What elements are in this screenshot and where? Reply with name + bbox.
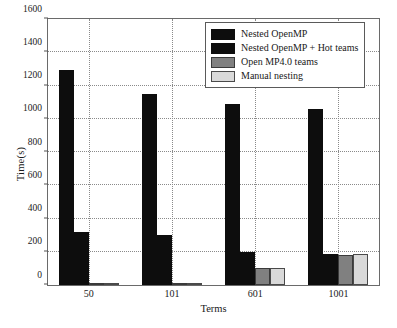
bar — [172, 283, 187, 285]
x-tick-label: 50 — [47, 286, 130, 302]
legend-item: Nested OpenMP — [211, 27, 358, 41]
y-tick-label: 200 — [28, 238, 48, 248]
y-tick-mark — [44, 51, 48, 52]
bar — [74, 232, 89, 285]
y-tick-label: 800 — [28, 138, 48, 148]
legend-swatch-icon — [211, 71, 235, 82]
legend-item: Manual nesting — [211, 69, 358, 83]
bar — [157, 235, 172, 285]
y-tick-mark — [44, 84, 48, 85]
legend-label: Nested OpenMP + Hot teams — [241, 43, 358, 53]
legend-item: Open MP4.0 teams — [211, 55, 358, 69]
y-tick-mark — [44, 284, 48, 285]
legend-swatch-icon — [211, 29, 235, 40]
y-tick-mark — [44, 18, 48, 19]
legend-swatch-icon — [211, 57, 235, 68]
x-axis-title: Terms — [47, 303, 380, 314]
bar — [353, 254, 368, 285]
y-tick-label: 400 — [28, 204, 48, 214]
y-tick-label: 0 — [37, 271, 48, 281]
x-tick-label: 601 — [214, 286, 297, 302]
bar — [225, 104, 240, 285]
x-tick-label: 1001 — [297, 286, 380, 302]
bar — [255, 268, 270, 285]
x-axis-ticks: 501016011001 — [47, 286, 380, 302]
bar — [59, 70, 74, 285]
bar — [323, 254, 338, 285]
y-tick-label: 1200 — [23, 71, 48, 81]
y-tick-label: 1000 — [23, 105, 48, 115]
y-tick-label: 1400 — [23, 38, 48, 48]
bar — [240, 252, 255, 285]
bar-group-50 — [48, 19, 131, 285]
y-axis-title: Time(s) — [15, 147, 26, 181]
bar — [89, 283, 104, 285]
bar — [338, 255, 353, 285]
chart-legend: Nested OpenMPNested OpenMP + Hot teamsOp… — [205, 22, 365, 88]
chart-figure: Time(s) 02004006008001000120014001600 50… — [0, 0, 397, 328]
legend-swatch-icon — [211, 43, 235, 54]
legend-label: Open MP4.0 teams — [241, 57, 318, 67]
y-tick-mark — [44, 117, 48, 118]
bar — [142, 94, 157, 285]
bar — [308, 109, 323, 285]
legend-label: Nested OpenMP — [241, 29, 307, 39]
bar-group-101 — [131, 19, 214, 285]
bar — [187, 283, 202, 285]
legend-label: Manual nesting — [241, 71, 303, 81]
y-tick-mark — [44, 250, 48, 251]
y-tick-mark — [44, 151, 48, 152]
y-tick-mark — [44, 217, 48, 218]
y-tick-label: 1600 — [23, 5, 48, 15]
y-tick-label: 600 — [28, 171, 48, 181]
x-tick-label: 101 — [130, 286, 213, 302]
bar — [270, 268, 285, 285]
y-tick-mark — [44, 184, 48, 185]
bar — [104, 283, 119, 285]
legend-item: Nested OpenMP + Hot teams — [211, 41, 358, 55]
